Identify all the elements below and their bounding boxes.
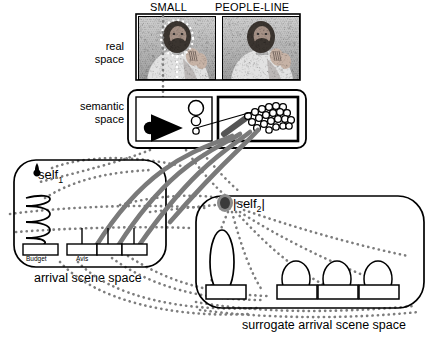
counter-box-3-surrogate (359, 285, 399, 299)
counter-box-budget (23, 244, 58, 255)
diagram-canvas: SMALL PEOPLE-LINE real space semantic sp… (0, 0, 432, 342)
dotted-self2-fan-2 (240, 212, 380, 282)
counter-box-2 (97, 244, 122, 255)
counter-box-2-surrogate (318, 285, 358, 299)
self1-marker-icon (33, 163, 40, 177)
dotted-self2-fan-1 (244, 210, 408, 256)
counter-box-budget-surrogate (206, 285, 246, 299)
counter-box-avis (67, 244, 97, 255)
self2-marker-icon (217, 194, 233, 212)
real-space-container (136, 14, 300, 80)
small-icon-self-dot (144, 122, 156, 134)
counter-box-3 (122, 244, 147, 255)
diagram-vector-layer (0, 0, 432, 342)
counter-box-avis-surrogate (277, 285, 317, 299)
